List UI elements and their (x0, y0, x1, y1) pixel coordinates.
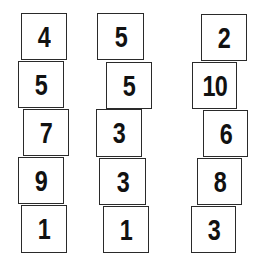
number-card: 7 (23, 109, 69, 156)
number-card: 6 (203, 110, 248, 157)
card-number: 3 (113, 118, 125, 148)
number-card: 3 (99, 158, 146, 205)
number-card: 4 (21, 13, 67, 60)
number-card: 5 (106, 62, 152, 109)
number-card: 3 (191, 206, 236, 253)
card-number: 1 (38, 214, 50, 244)
card-number: 6 (219, 119, 231, 149)
number-card: 2 (201, 14, 247, 61)
number-card: 1 (21, 205, 67, 253)
card-number: 3 (116, 167, 128, 197)
number-card: 9 (18, 157, 64, 204)
number-card: 3 (96, 109, 142, 157)
card-number: 7 (40, 118, 52, 148)
number-card: 1 (103, 206, 149, 253)
card-number: 8 (213, 167, 225, 197)
card-number: 5 (114, 22, 126, 52)
card-number: 4 (38, 22, 50, 52)
card-number: 5 (35, 70, 47, 100)
number-card: 5 (97, 13, 144, 60)
number-card: 10 (192, 62, 237, 109)
card-number: 1 (120, 215, 132, 245)
card-number: 2 (218, 23, 230, 53)
card-number: 3 (207, 215, 219, 245)
number-card: 5 (18, 61, 64, 108)
number-card: 8 (197, 158, 242, 205)
card-number: 5 (123, 71, 135, 101)
card-number: 9 (35, 166, 47, 196)
card-number: 10 (202, 71, 226, 101)
